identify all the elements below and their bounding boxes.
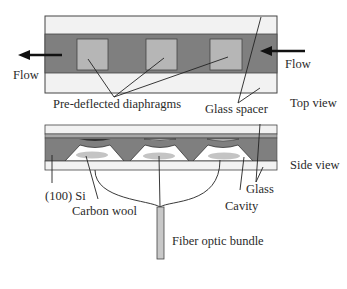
glass-label: Glass — [246, 183, 274, 196]
top-glass — [45, 125, 277, 134]
cavity-label: Cavity — [225, 200, 258, 213]
top-view-label: Top view — [290, 97, 337, 110]
carbon-wool-label: Carbon wool — [72, 205, 137, 218]
diaphragm-2 — [146, 39, 177, 70]
top-view — [18, 16, 305, 103]
si-label: (100) Si — [45, 190, 86, 203]
fiber-optic-label: Fiber optic bundle — [172, 235, 264, 248]
diaphragms-label: Pre-deflected diaphragms — [53, 98, 181, 111]
fiber-optic-bundle — [157, 207, 164, 259]
glass-spacer-label: Glass spacer — [205, 103, 268, 116]
flow-left-label: Flow — [13, 69, 39, 82]
side-view-label: Side view — [290, 159, 340, 172]
flow-right-label: Flow — [285, 58, 311, 71]
diaphragm-layer — [45, 134, 277, 138]
diaphragm-3 — [210, 39, 242, 70]
